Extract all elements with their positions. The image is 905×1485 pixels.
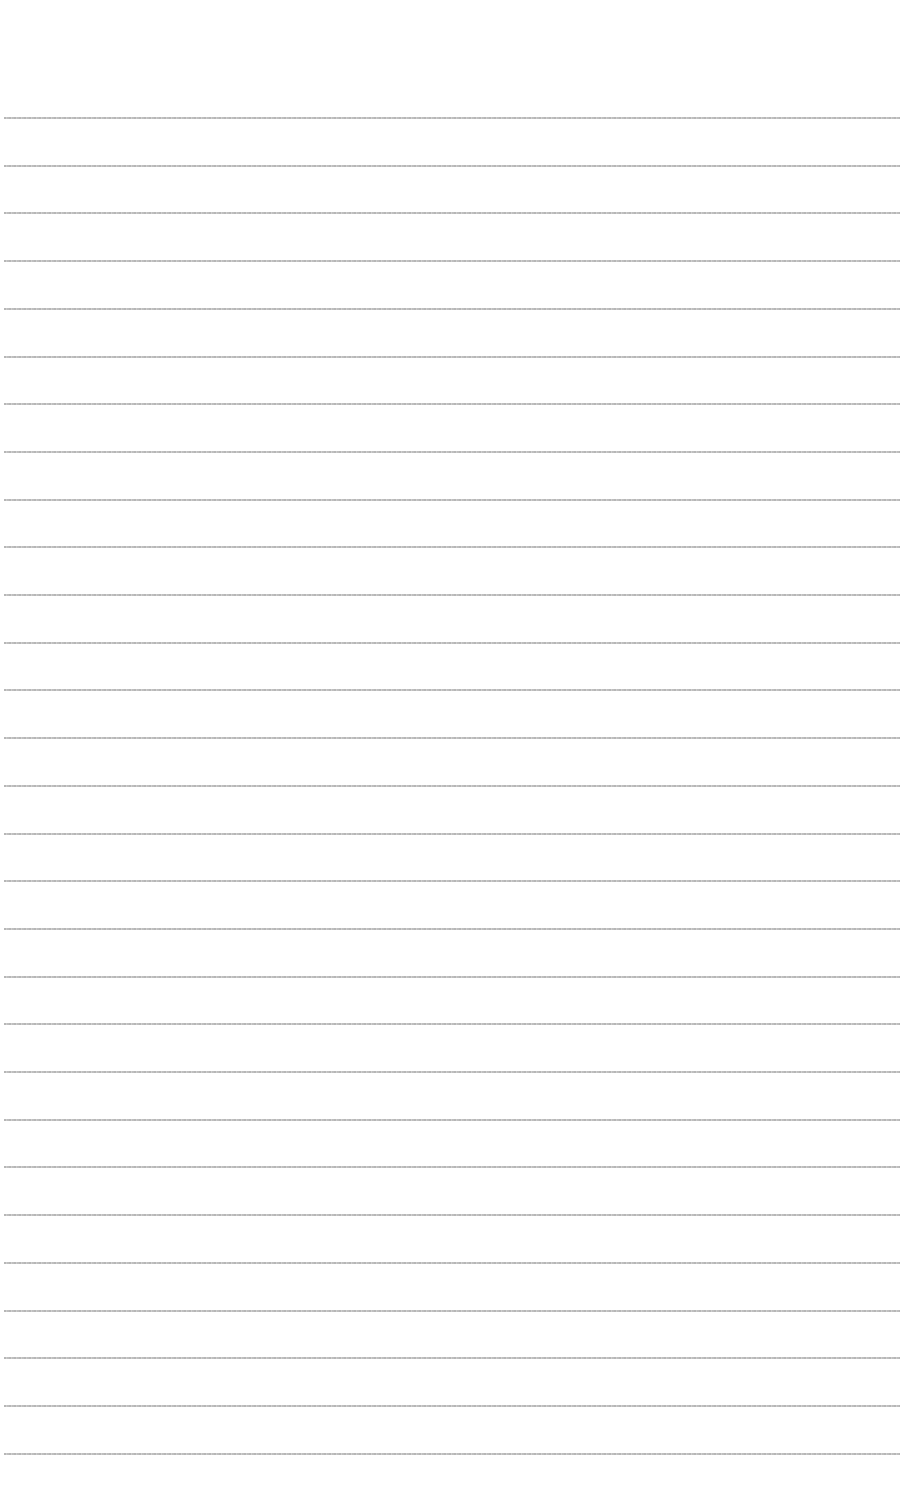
- ruled-line: [4, 165, 900, 167]
- ruled-line: [4, 928, 900, 930]
- ruled-line: [4, 594, 900, 596]
- ruled-line: [4, 499, 900, 501]
- ruled-line: [4, 1071, 900, 1073]
- ruled-line: [4, 1166, 900, 1168]
- ruled-line: [4, 356, 900, 358]
- ruled-line: [4, 403, 900, 405]
- ruled-line: [4, 1262, 900, 1264]
- ruled-line: [4, 1214, 900, 1216]
- ruled-line: [4, 1357, 900, 1359]
- ruled-line: [4, 1405, 900, 1407]
- ruled-line: [4, 689, 900, 691]
- ruled-line: [4, 785, 900, 787]
- ruled-line: [4, 642, 900, 644]
- header-bleed-through: [0, 4, 905, 20]
- ruled-line: [4, 976, 900, 978]
- ruled-line: [4, 308, 900, 310]
- ruled-line: [4, 833, 900, 835]
- ruled-line: [4, 1453, 900, 1455]
- ruled-line: [4, 1310, 900, 1312]
- ruled-line: [4, 451, 900, 453]
- ruled-line: [4, 212, 900, 214]
- ruled-line: [4, 546, 900, 548]
- ruled-line: [4, 737, 900, 739]
- ruled-line: [4, 880, 900, 882]
- ruled-line: [4, 1023, 900, 1025]
- ruled-line: [4, 1119, 900, 1121]
- ruled-line: [4, 117, 900, 119]
- ruled-line: [4, 260, 900, 262]
